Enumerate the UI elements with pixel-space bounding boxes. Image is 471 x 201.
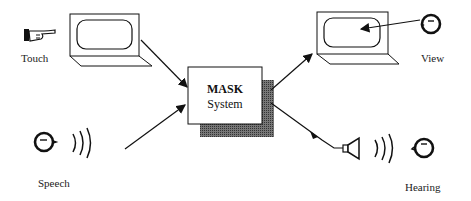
listening-head-icon bbox=[412, 139, 433, 157]
speaking-head-icon bbox=[35, 133, 56, 151]
speech-to-mask-arrow bbox=[125, 105, 185, 149]
touch-monitor-icon bbox=[70, 14, 152, 66]
speech-label: Speech bbox=[38, 177, 70, 189]
mask-title: MASK bbox=[188, 82, 262, 97]
view-label: View bbox=[421, 52, 444, 64]
eye-head-icon bbox=[421, 15, 440, 33]
hearing-label: Hearing bbox=[405, 181, 440, 193]
pointing-hand-icon bbox=[24, 29, 55, 41]
mask-to-hearing-arrow bbox=[271, 103, 343, 148]
speaker-icon bbox=[343, 138, 359, 159]
mask-to-view-arrow bbox=[271, 54, 312, 90]
view-monitor-icon bbox=[317, 12, 399, 64]
mask-subtitle: System bbox=[188, 97, 262, 112]
sound-waves-icon bbox=[73, 128, 91, 158]
touch-to-mask-arrow bbox=[141, 40, 187, 87]
hearing-sound-waves-icon bbox=[375, 134, 393, 163]
touch-label: Touch bbox=[21, 52, 48, 64]
